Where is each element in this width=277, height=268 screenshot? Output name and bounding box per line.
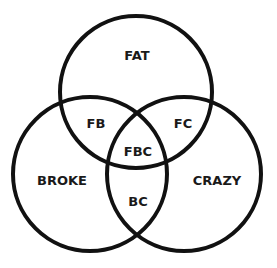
venn-diagram: FAT FB FC FBC BROKE CRAZY BC [0,0,277,268]
label-crazy: CRAZY [193,173,242,188]
label-fc: FC [174,116,192,131]
label-fat: FAT [124,48,149,63]
label-bc: BC [128,194,147,209]
label-fbc: FBC [124,144,152,159]
label-broke: BROKE [37,173,87,188]
label-fb: FB [87,116,106,131]
